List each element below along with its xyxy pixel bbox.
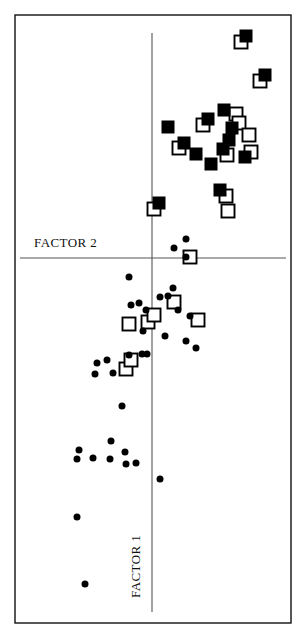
data-point-filled-square xyxy=(226,122,239,135)
data-point-circle xyxy=(136,300,143,307)
data-point-filled-square xyxy=(205,158,218,171)
data-point-circle xyxy=(170,285,177,292)
data-point-circle xyxy=(157,476,164,483)
data-point-circle xyxy=(128,302,135,309)
data-point-circle xyxy=(183,254,190,261)
data-point-filled-square xyxy=(214,184,227,197)
data-point-circle xyxy=(119,403,126,410)
axis-label-factor-2: FACTOR 2 xyxy=(34,235,97,250)
data-point-filled-square xyxy=(153,197,166,210)
data-point-circle xyxy=(175,307,182,314)
data-point-filled-square xyxy=(239,151,252,164)
data-point-circle xyxy=(82,581,89,588)
data-point-circle xyxy=(74,456,81,463)
data-point-circle xyxy=(183,338,190,345)
data-point-circle xyxy=(157,294,164,301)
data-point-circle xyxy=(143,307,150,314)
data-point-circle xyxy=(123,461,130,468)
data-point-circle xyxy=(183,236,190,243)
data-point-circle xyxy=(126,352,133,359)
data-point-circle xyxy=(165,293,172,300)
data-point-filled-square xyxy=(240,30,253,43)
data-point-filled-square xyxy=(218,104,231,117)
data-point-open-square xyxy=(123,318,136,331)
scatter-plot-canvas: FACTOR 2FACTOR 1 xyxy=(0,0,306,638)
data-point-open-square xyxy=(222,205,235,218)
axis-label-factor-1: FACTOR 1 xyxy=(128,535,143,598)
data-point-circle xyxy=(74,514,81,521)
data-point-filled-square xyxy=(217,143,230,156)
data-point-circle xyxy=(107,456,114,463)
data-point-filled-square xyxy=(162,121,175,134)
data-point-filled-square xyxy=(190,148,203,161)
scatter-plot-figure: FACTOR 2FACTOR 1 xyxy=(0,0,306,638)
data-point-circle xyxy=(76,447,83,454)
data-point-circle xyxy=(104,357,111,364)
data-point-circle xyxy=(133,460,140,467)
data-point-circle xyxy=(122,449,129,456)
data-point-circle xyxy=(187,313,194,320)
data-point-circle xyxy=(126,274,133,281)
data-point-circle xyxy=(92,371,99,378)
data-point-circle xyxy=(110,370,117,377)
data-point-filled-square xyxy=(202,113,215,126)
data-point-circle xyxy=(90,455,97,462)
data-point-circle xyxy=(94,360,101,367)
data-point-circle xyxy=(139,351,146,358)
data-point-circle xyxy=(193,345,200,352)
data-point-circle xyxy=(171,245,178,252)
data-point-filled-square xyxy=(259,69,272,82)
data-point-circle xyxy=(108,438,115,445)
data-point-filled-square xyxy=(178,137,191,150)
data-point-circle xyxy=(162,333,169,340)
data-point-open-square xyxy=(243,129,256,142)
data-point-circle xyxy=(140,328,147,335)
